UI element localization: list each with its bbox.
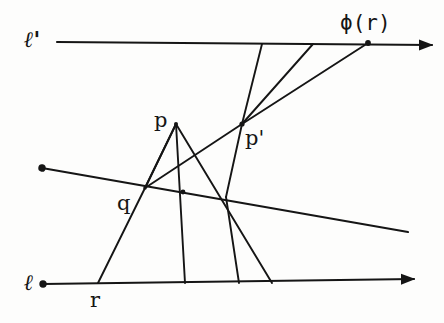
label-point-r: r [90, 290, 100, 311]
label-line-l: ℓ [24, 271, 33, 293]
label-point-phi-r: ϕ(r) [340, 13, 391, 34]
geometry-figure: ℓ' ℓ p p' q r ϕ(r) [0, 0, 444, 323]
line-oblique-transversal [42, 168, 408, 232]
node-dot-phi-r [365, 40, 371, 46]
ray-pprime-to-phi-r [242, 43, 368, 124]
segment-foot-right-lower [226, 197, 239, 283]
label-point-p-prime: p' [245, 128, 264, 149]
line-l-prime [57, 42, 432, 45]
node-dot-cross-mid [181, 190, 186, 195]
node-dot-p [174, 122, 178, 126]
segment-pprime-to-foot-right [226, 124, 242, 197]
segment-p-to-foot-mid [176, 124, 185, 283]
label-point-p: p [154, 110, 167, 131]
figure-canvas [0, 0, 444, 323]
label-line-l-prime: ℓ' [24, 28, 40, 50]
label-point-q: q [117, 193, 130, 214]
node-dot-p-prime [239, 121, 244, 126]
node-dot-q [143, 186, 147, 190]
